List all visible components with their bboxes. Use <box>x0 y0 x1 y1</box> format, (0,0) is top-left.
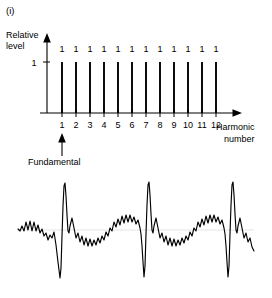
harmonic-bar-value-10: 1 <box>185 44 190 54</box>
harmonic-bar-value-6: 1 <box>129 44 134 54</box>
x-tick-label-2: 2 <box>73 120 78 130</box>
harmonic-bar-group-12: 1 12 <box>211 44 221 130</box>
harmonic-bar-group-3: 1 3 <box>87 44 92 130</box>
figure-container: (i) Relative level 1 Harmonic number 1 <box>0 0 272 298</box>
x-tick-label-7: 7 <box>143 120 148 130</box>
x-tick-label-3: 3 <box>87 120 92 130</box>
harmonic-bar-value-9: 1 <box>171 44 176 54</box>
y-tick-label-1: 1 <box>31 58 36 68</box>
x-tick-label-9: 9 <box>171 120 176 130</box>
y-axis-arrowhead <box>43 33 51 43</box>
harmonic-bar-value-3: 1 <box>87 44 92 54</box>
y-axis-title-line2: level <box>6 41 25 51</box>
spectrum-chart: Relative level 1 Harmonic number 1 1 <box>6 30 255 167</box>
harmonic-bar-value-11: 1 <box>199 44 204 54</box>
harmonic-bar-value-12: 1 <box>213 44 218 54</box>
y-axis-title-line1: Relative <box>6 30 39 40</box>
harmonic-bar-value-8: 1 <box>157 44 162 54</box>
waveform-chart <box>18 182 254 278</box>
harmonic-bar-group-6: 1 6 <box>129 44 134 130</box>
harmonic-bar-group-11: 1 11 <box>197 44 206 130</box>
harmonic-bar-group-1: 1 1 <box>59 44 64 130</box>
fundamental-callout-label: Fundamental <box>28 157 81 167</box>
x-axis-title-line2: number <box>224 134 255 144</box>
x-axis-arrowhead <box>233 109 243 117</box>
x-tick-label-12: 12 <box>211 120 221 130</box>
harmonic-bar-group-7: 1 7 <box>143 44 148 130</box>
panel-label: (i) <box>6 5 14 16</box>
x-tick-label-1: 1 <box>59 120 64 130</box>
harmonic-bar-group-4: 1 4 <box>101 44 106 130</box>
x-tick-label-5: 5 <box>115 120 120 130</box>
x-tick-label-6: 6 <box>129 120 134 130</box>
harmonic-bar-value-7: 1 <box>143 44 148 54</box>
x-tick-label-4: 4 <box>101 120 106 130</box>
figure-svg: (i) Relative level 1 Harmonic number 1 <box>0 0 272 298</box>
x-axis-title-line1: Harmonic <box>216 122 255 132</box>
x-tick-label-11: 11 <box>197 120 206 130</box>
harmonic-bar-group-2: 1 2 <box>73 44 78 130</box>
harmonic-bar-group-9: 1 9 <box>171 44 176 130</box>
x-tick-label-8: 8 <box>157 120 162 130</box>
fundamental-callout: Fundamental <box>28 133 81 167</box>
harmonic-bar-group-5: 1 5 <box>115 44 120 130</box>
fundamental-callout-arrowhead <box>58 133 66 143</box>
harmonic-bar-group-8: 1 8 <box>157 44 162 130</box>
harmonic-bar-value-1: 1 <box>59 44 64 54</box>
harmonic-bar-group-10: 1 10 <box>183 44 193 130</box>
x-tick-label-10: 10 <box>183 120 193 130</box>
harmonic-bar-value-4: 1 <box>101 44 106 54</box>
harmonic-bar-value-5: 1 <box>115 44 120 54</box>
harmonic-bar-value-2: 1 <box>73 44 78 54</box>
